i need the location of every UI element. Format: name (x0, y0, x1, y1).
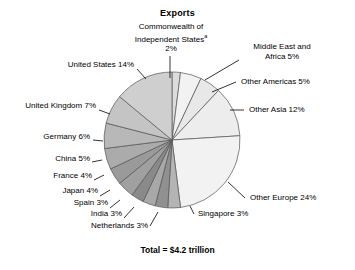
label-commonwealth-independent-states: Commonwealth of Independent Statesa 2% (125, 22, 217, 53)
label-netherlands: Netherlands 3% (48, 221, 148, 231)
label-china: China 5% (14, 154, 90, 164)
label-japan: Japan 4% (22, 186, 98, 196)
label-mea-line1: Middle East and (253, 42, 310, 51)
label-cis-footnote: a (204, 33, 207, 39)
leader-line-netherlands (150, 212, 158, 226)
label-india: India 3% (42, 209, 122, 219)
leader-line-other-americas (212, 82, 236, 92)
label-singapore: Singapore 3% (198, 209, 248, 219)
pie-slice-group (104, 72, 240, 208)
leader-line-india (124, 207, 134, 218)
leader-line-germany (93, 140, 103, 141)
label-other-asia: Other Asia 12% (249, 105, 305, 115)
leader-line-middle-east-africa (205, 60, 239, 80)
leader-line-singapore (190, 206, 194, 214)
label-other-europe: Other Europe 24% (250, 193, 316, 203)
leader-line-united-states (137, 69, 146, 79)
pie-chart-figure: Exports Commonwealth of Independent Stat… (0, 0, 355, 270)
label-united-states: United States 14% (28, 60, 134, 70)
pie-slice-other-europe (172, 136, 240, 208)
label-other-americas: Other Americas 5% (241, 77, 310, 87)
leader-line-france (94, 175, 104, 180)
leader-line-china (92, 160, 102, 162)
leader-line-spain (110, 200, 120, 208)
chart-total-label: Total = $4.2 trillion (0, 245, 355, 255)
label-cis-line1: Commonwealth of (139, 22, 203, 31)
label-united-kingdom: United Kingdom 7% (0, 101, 96, 111)
label-spain: Spain 3% (32, 198, 108, 208)
label-mea-line2: Africa 5% (265, 52, 299, 61)
label-france: France 4% (14, 171, 92, 181)
label-cis-value: 2% (165, 44, 177, 53)
label-middle-east-and-africa: Middle East and Africa 5% (243, 42, 321, 61)
label-cis-line2: Independent States (135, 34, 204, 43)
leader-line-united-kingdom (99, 110, 110, 114)
leader-line-other-europe (228, 182, 245, 198)
leader-line-japan (100, 190, 110, 196)
label-germany: Germany 6% (8, 132, 90, 142)
